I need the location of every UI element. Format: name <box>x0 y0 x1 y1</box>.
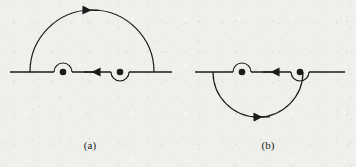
contour-panel-a: (a) <box>0 0 180 167</box>
pole-marker-a-2 <box>117 69 124 76</box>
figure-root: (a) <box>0 0 356 167</box>
pole-marker-b-1 <box>239 69 246 76</box>
major-arc-upper-a <box>30 10 154 72</box>
major-arc-lower-b <box>213 72 303 117</box>
contour-panel-b: (b) <box>180 0 356 167</box>
pole-marker-b-2 <box>297 69 304 76</box>
pole-marker-a-1 <box>60 69 67 76</box>
panel-caption-b: (b) <box>180 139 356 151</box>
panel-caption-a: (a) <box>0 139 180 151</box>
